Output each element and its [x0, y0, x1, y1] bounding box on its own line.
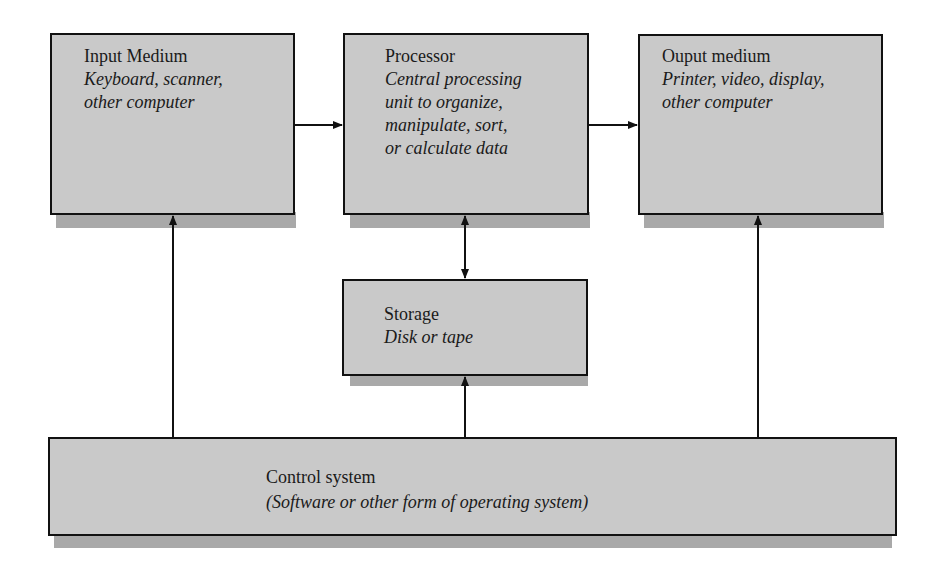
storage-title: Storage [384, 303, 439, 326]
processor-title: Processor [385, 45, 455, 68]
control-system-title: Control system [266, 466, 376, 489]
processor-description: Central processing unit to organize, man… [385, 68, 522, 160]
processor-box: Processor Central processing unit to org… [343, 33, 589, 215]
output-medium-title: Ouput medium [662, 45, 771, 68]
input-medium-box: Input Medium Keyboard, scanner, other co… [50, 33, 295, 215]
control-system-box: Control system (Software or other form o… [48, 437, 897, 536]
output-medium-description: Printer, video, display, other computer [662, 68, 824, 114]
storage-box: Storage Disk or tape [342, 279, 588, 376]
input-medium-description: Keyboard, scanner, other computer [84, 68, 223, 114]
input-medium-title: Input Medium [84, 45, 188, 68]
output-medium-box: Ouput medium Printer, video, display, ot… [638, 34, 883, 215]
storage-description: Disk or tape [384, 326, 473, 349]
control-system-description: (Software or other form of operating sys… [266, 491, 588, 514]
